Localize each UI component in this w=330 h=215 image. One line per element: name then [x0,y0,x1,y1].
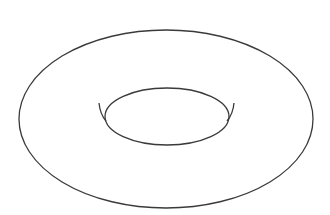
torus-diagram [0,0,330,215]
torus-svg [0,0,330,215]
torus-hole-outline [105,88,229,145]
torus-outer-outline [19,30,313,208]
